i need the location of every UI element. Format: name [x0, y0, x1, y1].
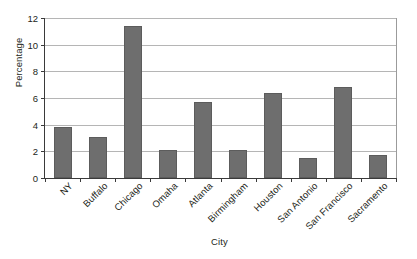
- bar-slot: [220, 18, 255, 178]
- y-tick-label: 2: [33, 146, 38, 157]
- x-tick-label: Atlanta: [186, 180, 215, 209]
- bar: [194, 102, 212, 178]
- bar: [54, 127, 72, 178]
- x-axis-labels: NYBuffaloChicagoOmahaAtlantaBirminghamHo…: [44, 180, 395, 232]
- bar: [369, 155, 387, 178]
- bar-slot: [185, 18, 220, 178]
- x-tick-label: Omaha: [149, 180, 179, 210]
- bar-slot: [80, 18, 115, 178]
- bar-slot: [291, 18, 326, 178]
- bar-slot: [256, 18, 291, 178]
- x-tick-mark: [396, 178, 397, 182]
- bar: [264, 93, 282, 178]
- bar: [89, 137, 107, 178]
- plot-area: 121086420: [44, 18, 396, 179]
- bar: [334, 87, 352, 178]
- x-tick-label: Houston: [252, 180, 285, 213]
- y-tick-label: 12: [27, 13, 38, 24]
- y-axis-title: Percentage: [13, 8, 24, 118]
- bar: [124, 26, 142, 178]
- bar: [229, 150, 247, 178]
- x-tick-label: Buffalo: [80, 180, 109, 209]
- bars-layer: [45, 18, 396, 178]
- x-tick-label: NY: [57, 180, 74, 197]
- bar-slot: [361, 18, 396, 178]
- y-tick-label: 8: [33, 66, 38, 77]
- bar-slot: [326, 18, 361, 178]
- bar-slot: [115, 18, 150, 178]
- plot-right-border: [396, 18, 397, 178]
- bar-slot: [150, 18, 185, 178]
- bar: [159, 150, 177, 178]
- y-tick-label: 10: [27, 39, 38, 50]
- y-tick-label: 4: [33, 119, 38, 130]
- y-tick-label: 6: [33, 93, 38, 104]
- bar: [299, 158, 317, 178]
- bar-slot: [45, 18, 80, 178]
- y-tick-label: 0: [33, 173, 38, 184]
- x-tick-label: Chicago: [112, 180, 145, 213]
- bar-chart-figure: Percentage 121086420 NYBuffaloChicagoOma…: [0, 0, 417, 259]
- x-axis-title: City: [44, 236, 395, 247]
